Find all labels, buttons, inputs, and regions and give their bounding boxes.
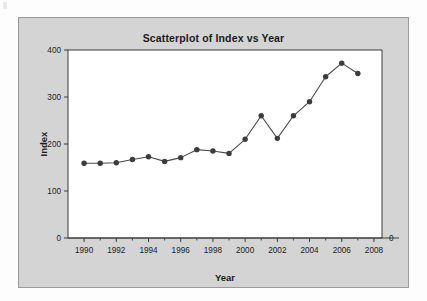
data-point bbox=[130, 157, 135, 162]
x-tick-label: 1994 bbox=[139, 246, 158, 255]
screenshot-root: Scatterplot of Index vs Year 01002003004… bbox=[0, 0, 427, 301]
x-axis-ticks: 1990199219941996199820002002200420062008 bbox=[75, 238, 384, 255]
x-tick-label: 1998 bbox=[204, 246, 223, 255]
x-tick-label: 1992 bbox=[107, 246, 126, 255]
data-point bbox=[323, 74, 328, 79]
data-point bbox=[259, 113, 264, 118]
plot-area-background bbox=[68, 50, 382, 238]
data-point bbox=[226, 151, 231, 156]
data-point bbox=[194, 147, 199, 152]
data-point bbox=[242, 137, 247, 142]
data-point bbox=[210, 148, 215, 153]
data-point bbox=[355, 71, 360, 76]
data-point bbox=[307, 99, 312, 104]
x-tick-label: 2008 bbox=[365, 246, 384, 255]
scatterplot-svg: Scatterplot of Index vs Year 01002003004… bbox=[19, 18, 408, 287]
y-tick-label: 200 bbox=[47, 140, 61, 149]
data-point bbox=[146, 154, 151, 159]
y-axis-title: Index bbox=[38, 131, 49, 157]
data-point bbox=[275, 136, 280, 141]
data-point bbox=[114, 160, 119, 165]
y-tick-label: 400 bbox=[47, 46, 61, 55]
data-point bbox=[81, 161, 86, 166]
data-point bbox=[291, 113, 296, 118]
data-point bbox=[162, 159, 167, 164]
chart-title: Scatterplot of Index vs Year bbox=[143, 32, 285, 44]
x-tick-label: 1990 bbox=[75, 246, 94, 255]
corner-artifact bbox=[3, 2, 7, 9]
data-point bbox=[98, 161, 103, 166]
x-tick-label: 2004 bbox=[300, 246, 319, 255]
x-tick-label: 2006 bbox=[333, 246, 352, 255]
data-point bbox=[178, 155, 183, 160]
chart-panel: Scatterplot of Index vs Year 01002003004… bbox=[18, 17, 409, 288]
x-tick-label: 2000 bbox=[236, 246, 255, 255]
y-tick-label: 100 bbox=[47, 187, 61, 196]
right-axis-zero-label: 0 bbox=[389, 234, 394, 243]
y-tick-label: 0 bbox=[56, 234, 61, 243]
x-tick-label: 2002 bbox=[268, 246, 287, 255]
data-point bbox=[339, 60, 344, 65]
x-axis-title: Year bbox=[215, 272, 235, 283]
x-tick-label: 1996 bbox=[172, 246, 191, 255]
y-tick-label: 300 bbox=[47, 93, 61, 102]
